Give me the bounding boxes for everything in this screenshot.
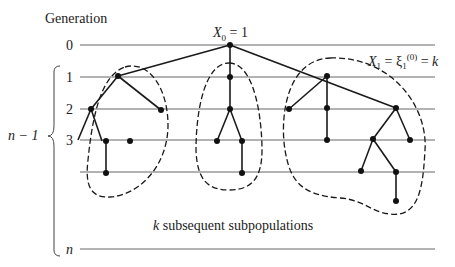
generation-label-1: 1 [66,71,73,85]
tree-edges [78,45,410,201]
subpopulation-boundary-middle [196,63,262,190]
node [88,106,94,112]
node [393,198,399,204]
root-annotation: X0 = 1 [213,26,248,45]
generation-label-2: 2 [66,103,73,117]
node [407,137,413,143]
generation-title: Generation [45,12,107,26]
node [324,137,330,143]
node [324,105,330,111]
brace [48,66,60,256]
generation-label-0: 0 [66,39,73,53]
node [214,138,220,144]
node [115,73,121,79]
node [227,74,233,80]
node [103,138,109,144]
node [158,107,164,113]
node [358,168,364,174]
generation-label-3: 3 [66,134,73,148]
caption: k subsequent subpopulations [153,219,313,233]
node [127,138,133,144]
generation-label-n: n [66,243,73,257]
first-generation-annotation: X1 = ξ1(0) = k [368,50,438,73]
node [239,138,245,144]
node [227,106,233,112]
node [286,106,292,112]
brace-label: n − 1 [8,129,38,143]
node [370,136,376,142]
node [239,170,245,176]
node [103,170,109,176]
node [324,73,330,79]
node [393,105,399,111]
node [393,169,399,175]
subpopulation-boundary-right [283,58,425,214]
